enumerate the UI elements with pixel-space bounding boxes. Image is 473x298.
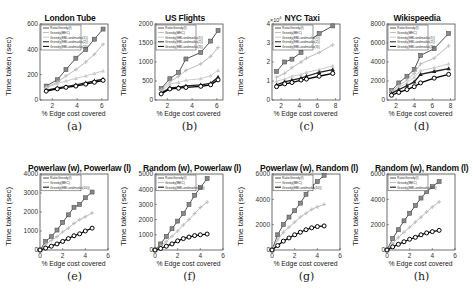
data-point-marker [331,71,335,75]
data-point-marker [425,231,429,235]
y-axis-label: Time taken (sec) [236,37,245,96]
data-point-marker [432,76,436,80]
data-point-marker [184,85,188,89]
data-point-marker [78,232,82,236]
data-point-marker [83,229,87,233]
data-point-marker [101,27,105,31]
legend-entry: Greedy(BEC) [50,181,70,185]
y-tick-label: 4000 [139,186,154,193]
data-point-marker [322,224,326,228]
data-point-marker [209,39,213,43]
data-point-marker [101,78,105,82]
legend-entry: Greedy(EBLandmarks(10)) [165,186,205,190]
data-point-marker [92,37,96,41]
y-tick-label: 3000 [139,201,154,208]
data-point-marker [153,248,157,252]
data-point-marker [287,236,291,240]
data-point-marker [176,239,180,243]
data-point-marker [281,239,285,243]
data-point-marker [447,72,451,76]
data-point-marker [216,28,220,32]
data-point-marker [331,24,335,28]
data-point-marker [199,84,203,88]
legend-entry: Greedy(BEC) [165,181,185,185]
data-point-marker [72,234,76,238]
legend-entry: Greedy(EBLandmarks(2)) [50,40,88,44]
x-axis-label: % Edge cost covered [362,260,473,267]
data-point-marker [61,220,65,224]
data-point-marker [193,234,197,238]
y-tick-label: 200 [27,71,38,78]
x-tick-label: 2 [166,102,170,109]
data-point-marker [209,83,213,87]
y-axis-label: Time taken (sec) [351,187,360,246]
data-point-marker [170,242,174,246]
y-tick-label: 4000 [256,196,271,203]
data-point-marker [64,85,68,89]
x-tick-label: 4 [297,102,301,109]
chart-panel-d: 020004000600080002468RatioGreedy(f)Greed… [347,0,464,149]
data-point-marker [275,85,279,89]
y-tick-label: 3000 [24,189,39,196]
data-point-marker [176,219,180,223]
data-point-marker [391,245,395,249]
chart-panel-c: 012342468RatioGreedy(f)Greedy(BEC)Greedy… [232,0,349,149]
legend-entry: RatioGreedy(f) [165,26,187,30]
legend: RatioGreedy(f)Greedy(BEC)Greedy(EBLandma… [156,25,203,50]
chart-panel-h: 02000400060000246RatioGreedy(f)Greedy(BE… [347,150,464,298]
data-point-marker [216,78,220,82]
data-point-marker [402,240,406,244]
x-tick-label: 6 [453,252,457,259]
data-point-marker [385,248,389,252]
data-point-marker [198,233,202,237]
legend-entry: Greedy(EBLandmarks(3)) [397,45,435,49]
data-point-marker [281,223,285,227]
x-tick-label: 6 [338,252,342,259]
data-point-marker [199,51,203,55]
data-point-marker [66,237,70,241]
data-point-marker [287,215,291,219]
data-point-marker [317,74,321,78]
x-tick-label: 6 [316,102,320,109]
x-tick-label: 4 [190,102,194,109]
x-tick-label: 4 [199,252,203,259]
data-point-marker [437,228,441,232]
y-tick-label: 400 [27,46,38,53]
data-point-marker [159,92,163,96]
data-point-marker [413,204,417,208]
x-tick-label: 6 [106,252,110,259]
data-point-marker [315,180,319,184]
legend: RatioGreedy(f)Greedy(BEC)Greedy(EBLandma… [388,25,435,50]
legend-entry: Greedy(EBLandmarks(3)) [50,45,88,49]
data-point-marker [187,235,191,239]
data-point-marker [55,228,59,232]
chart-title: London Tube [28,13,112,23]
x-tick-label: 0 [385,252,389,259]
legend-entry: Greedy(EBLandmarks(1)) [282,36,320,40]
data-point-marker [391,237,395,241]
x-tick-label: 2 [394,102,398,109]
data-point-marker [298,230,302,234]
y-axis-label: Time taken (sec) [119,37,128,96]
x-axis-label: % Edge cost covered [130,260,247,267]
legend-entry: RatioGreedy(f) [282,176,304,180]
y-axis-label: Time taken (sec) [4,37,13,96]
legend-entry: RatioGreedy(f) [397,176,419,180]
data-point-marker [168,87,172,91]
legend-entry: RatioGreedy(f) [165,176,187,180]
data-point-marker [55,242,59,246]
data-point-marker [90,226,94,230]
x-tick-label: 8 [334,102,338,109]
data-point-marker [408,237,412,241]
data-point-marker [61,239,65,243]
legend-entry: RatioGreedy(f) [50,26,72,30]
data-point-marker [413,235,417,239]
data-point-marker [419,233,423,237]
x-tick-label: 4 [75,102,79,109]
data-point-marker [412,85,416,89]
data-point-marker [447,32,451,36]
data-point-marker [419,81,423,85]
subfigure-caption: (d) [363,120,473,133]
legend: RatioGreedy(f)Greedy(BEC)Greedy(EBLandma… [273,25,320,50]
legend-entry: RatioGreedy(f) [50,176,72,180]
